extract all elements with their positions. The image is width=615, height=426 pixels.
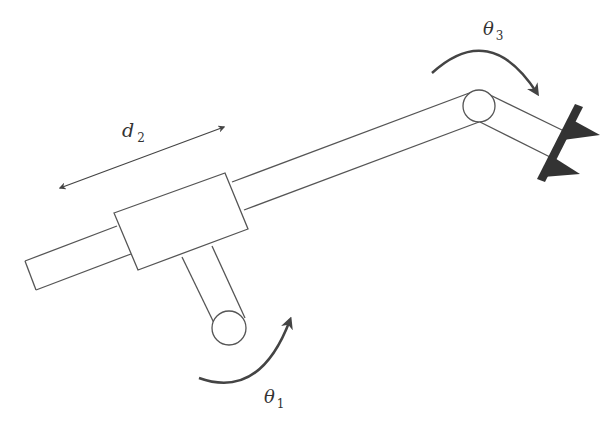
gripper (537, 104, 600, 182)
base-link (182, 246, 245, 323)
theta3-label: θ3 (483, 18, 503, 43)
prismatic-block (114, 173, 248, 270)
d2-label: d2 (122, 119, 145, 145)
manipulator-diagram: d2 θ3 θ1 (0, 0, 615, 426)
theta1-label: θ1 (264, 386, 284, 411)
theta3-rotation-arrow (432, 51, 537, 93)
base-joint-circle (212, 311, 246, 345)
main-link (25, 92, 479, 290)
wrist-joint-circle (463, 90, 495, 122)
